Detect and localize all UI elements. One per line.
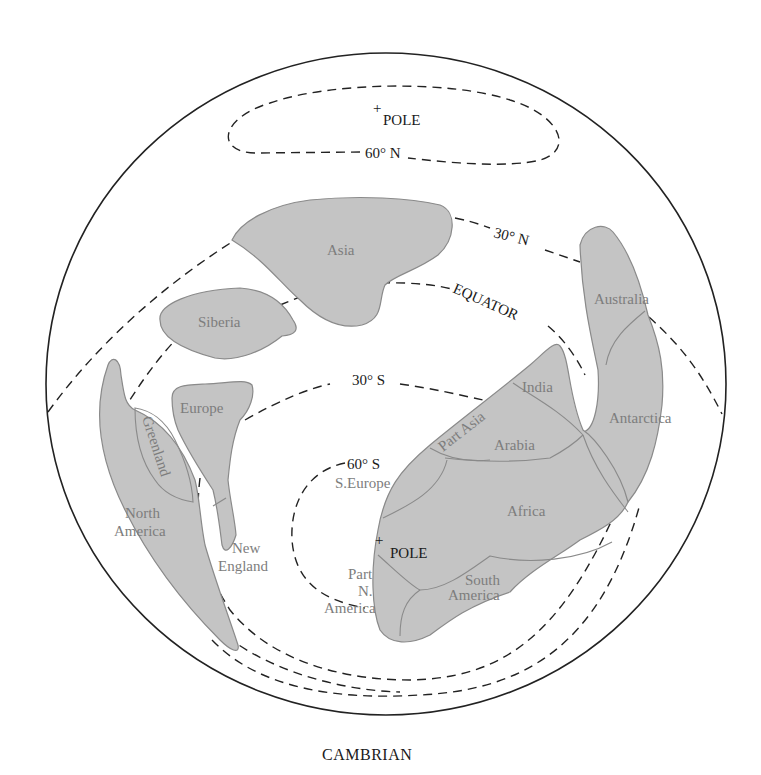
latitude-30s-ring-right bbox=[400, 384, 483, 400]
part-na-label-1: Part bbox=[348, 566, 373, 582]
north-america-label-1: North bbox=[125, 505, 160, 521]
latitude-30s-label: 30° S bbox=[352, 372, 385, 388]
south-pole-label: POLE bbox=[390, 545, 428, 561]
africa-label: Africa bbox=[507, 503, 546, 519]
latitude-60s-label: 60° S bbox=[347, 456, 380, 472]
arabia-label: Arabia bbox=[494, 437, 535, 453]
siberia-label: Siberia bbox=[198, 314, 241, 330]
asia-label: Asia bbox=[327, 242, 355, 258]
north-pole-plus: + bbox=[373, 100, 381, 116]
equator-line-asia bbox=[280, 297, 300, 305]
antarctica-label: Antarctica bbox=[609, 410, 672, 426]
new-england-label-2: England bbox=[218, 558, 268, 574]
paleogeographic-map: + POLE + POLE 60° N 30° N EQUATOR 30° S … bbox=[0, 0, 761, 775]
south-america-label-1: South bbox=[465, 572, 501, 588]
part-na-label-2: N. bbox=[358, 583, 373, 599]
europe-label: Europe bbox=[180, 400, 224, 416]
south-america-label-2: America bbox=[448, 587, 500, 603]
south-pole-plus: + bbox=[375, 532, 383, 548]
latitude-30n-line-right-2 bbox=[545, 250, 580, 262]
part-na-label-3: America bbox=[324, 600, 376, 616]
latitude-30s-ring bbox=[245, 384, 330, 420]
north-pole-label: POLE bbox=[383, 112, 421, 128]
map-caption: CAMBRIAN bbox=[322, 746, 412, 763]
latitude-30n-line-right bbox=[455, 218, 490, 228]
india-label: India bbox=[522, 379, 553, 395]
north-america-label-2: America bbox=[114, 523, 166, 539]
latitude-60n-label: 60° N bbox=[365, 145, 401, 161]
australia-label: Australia bbox=[594, 291, 649, 307]
s-europe-label: S.Europe bbox=[335, 475, 391, 491]
equator-line-right bbox=[381, 283, 455, 290]
new-england-label-1: New bbox=[232, 540, 260, 556]
equator-label: EQUATOR bbox=[451, 280, 521, 323]
latitude-30n-label: 30° N bbox=[492, 224, 531, 248]
